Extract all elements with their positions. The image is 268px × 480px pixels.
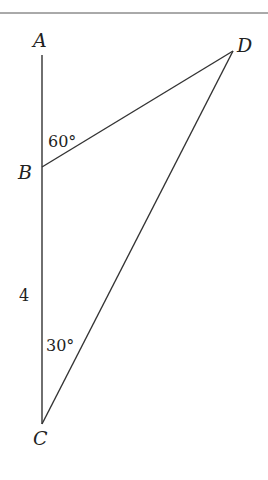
length-bc-label: 4 <box>19 286 29 305</box>
segment-cd <box>42 51 233 424</box>
point-a-label: A <box>31 29 47 51</box>
point-c-label: C <box>33 427 48 449</box>
angle-abd-label: 60° <box>48 132 76 151</box>
point-d-label: D <box>236 34 252 56</box>
point-b-label: B <box>17 161 32 183</box>
angle-bcd-label: 30° <box>46 336 74 355</box>
geometry-diagram: A B C D 60° 4 30° <box>0 0 268 480</box>
